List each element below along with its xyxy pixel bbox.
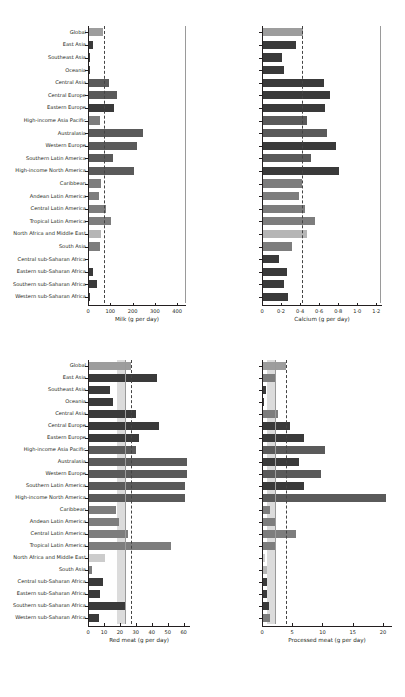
region-label: Central Europe [0,423,86,428]
region-label: Australasia [0,459,86,464]
bar [262,458,299,466]
bar [262,590,267,598]
bar [88,293,90,301]
x-axis-tick [120,623,121,626]
chart-calcium: 00·20·40·60·81·01·2Calcium (g per day) [205,22,405,342]
bar [262,242,292,250]
bar [88,374,157,382]
y-axis-spine [88,360,89,624]
x-axis-line [88,626,190,627]
region-label: Tropical Latin America [0,219,86,224]
bar [88,398,113,406]
x-axis-tick-label: 60 [170,629,198,635]
x-axis-tick [322,623,323,626]
region-label: Global [0,30,86,35]
x-axis-tick [152,623,153,626]
region-label: Australasia [0,131,86,136]
region-label: Western sub-Saharan Africa [0,615,86,620]
bar [262,66,284,74]
bar [88,116,100,124]
bar [88,142,137,150]
bar [88,506,116,514]
bar [88,179,101,187]
bar [262,217,315,225]
region-label: South Asia [0,567,86,572]
x-axis-tick [88,303,89,306]
region-label: Southern Latin America [0,156,86,161]
x-axis-title: Red meat (g per day) [99,637,179,643]
bar [88,458,187,466]
x-axis-tick-label: 15 [339,629,367,635]
region-label: Western Europe [0,143,86,148]
bar [88,66,90,74]
y-axis-spine [88,26,89,303]
reference-line-dashed [302,26,303,303]
bar [88,590,100,598]
bar [88,129,143,137]
bar [262,446,325,454]
region-label: Central Europe [0,93,86,98]
bar [88,422,159,430]
bar [88,91,117,99]
bar [88,280,97,288]
region-label: Tropical Latin America [0,543,86,548]
region-label: Andean Latin America [0,519,86,524]
region-label: Central Asia [0,411,86,416]
bar [88,104,114,112]
y-axis-spine [262,26,263,303]
x-axis-tick [88,623,89,626]
reference-line-dashed [286,360,287,624]
region-label: Central Asia [0,80,86,85]
x-axis-tick [262,303,263,306]
x-axis-title: Calcium (g per day) [282,316,362,322]
x-axis-tick [184,623,185,626]
bar [88,446,136,454]
x-axis-tick-label: 5 [278,629,306,635]
x-axis-tick [262,623,263,626]
bar [262,554,265,562]
x-axis-tick-label: 10 [308,629,336,635]
bar [262,506,270,514]
x-axis-tick [338,303,339,306]
x-axis-tick [177,303,178,306]
y-axis-spine [262,360,263,624]
x-axis-tick [319,303,320,306]
region-label: East Asia [0,375,86,380]
bar [88,602,125,610]
region-label: Western sub-Saharan Africa [0,294,86,299]
region-label: South Asia [0,244,86,249]
chart-red-meat: GlobalEast AsiaSoutheast AsiaOceaniaCent… [0,356,205,676]
region-label: Eastern sub-Saharan Africa [0,591,86,596]
bar [88,578,103,586]
region-label: Central Latin America [0,531,86,536]
region-label: Central sub-Saharan Africa [0,579,86,584]
x-axis-tick [281,303,282,306]
bar [88,167,134,175]
bar [88,482,185,490]
bar [262,293,288,301]
bar [262,494,386,502]
bar [88,554,105,562]
region-label: Global [0,363,86,368]
region-label: Central Latin America [0,206,86,211]
bar [262,192,299,200]
bar [88,268,93,276]
region-label: Western Europe [0,471,86,476]
x-axis-title: Processed meat (g per day) [287,637,367,643]
region-label: Southeast Asia [0,55,86,60]
bar [262,386,266,394]
bar [262,374,275,382]
bar [262,53,282,61]
bar [262,470,321,478]
region-label: High-income North America [0,495,86,500]
region-label: Oceania [0,399,86,404]
bar [262,129,327,137]
x-axis-tick [168,623,169,626]
optimal-intake-band [117,360,124,624]
region-label: Southern Latin America [0,483,86,488]
x-axis-line [262,305,382,306]
bar [88,41,93,49]
bar [262,205,305,213]
bar [262,230,307,238]
region-label: Caribbean [0,181,86,186]
